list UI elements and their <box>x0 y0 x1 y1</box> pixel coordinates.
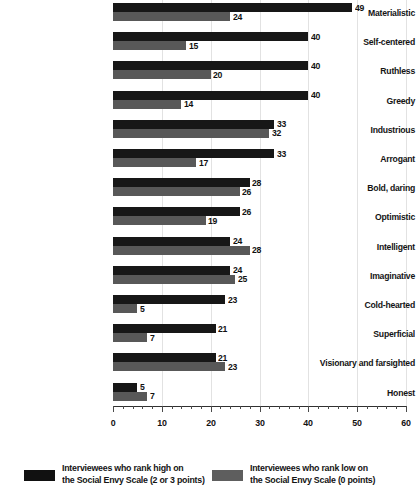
category-label: Visionary and farsighted <box>315 358 415 368</box>
axis-tick-minor <box>347 406 348 409</box>
axis-tick-minor <box>172 406 173 409</box>
bar <box>113 216 206 225</box>
bar-value-label: 26 <box>242 188 251 197</box>
category-label: Superficial <box>315 329 415 339</box>
bar <box>113 295 225 304</box>
x-tick-label: 30 <box>247 417 271 428</box>
bar <box>113 41 186 50</box>
bar <box>113 333 147 342</box>
bar-value-label: 7 <box>150 334 155 343</box>
axis-tick-minor <box>152 406 153 409</box>
bar <box>113 362 225 371</box>
axis-tick-minor <box>386 406 387 409</box>
axis-tick-minor <box>328 406 329 409</box>
bar <box>113 70 211 79</box>
legend-label: Interviewees who rank high onthe Social … <box>62 462 205 485</box>
bar-value-label: 40 <box>311 62 320 71</box>
axis-tick-minor <box>133 406 134 409</box>
axis-tick-minor <box>123 406 124 409</box>
legend-label: Interviewees who rank low onthe Social E… <box>250 462 375 485</box>
bar-value-label: 15 <box>189 42 198 51</box>
bar <box>113 353 216 362</box>
category-label: Self-centered <box>315 37 415 47</box>
axis-tick-major <box>162 406 163 412</box>
bar-value-label: 28 <box>252 246 261 255</box>
chart-legend: Interviewees who rank high onthe Social … <box>0 462 415 504</box>
bar <box>113 100 181 109</box>
x-tick-label: 60 <box>394 417 418 428</box>
bar-value-label: 32 <box>272 129 281 138</box>
plot-area: MaterialisticSelf-centeredRuthlessGreedy… <box>0 0 415 440</box>
bar-value-label: 23 <box>228 296 237 305</box>
legend-swatch <box>212 470 243 481</box>
bar-value-label: 26 <box>242 208 251 217</box>
bar-value-label: 40 <box>311 91 320 100</box>
axis-tick-minor <box>230 406 231 409</box>
axis-tick-major <box>357 406 358 412</box>
axis-tick-major <box>260 406 261 412</box>
axis-tick-minor <box>338 406 339 409</box>
bar-value-label: 24 <box>233 13 242 22</box>
legend-swatch <box>24 470 55 481</box>
bar <box>113 158 196 167</box>
bar-value-label: 7 <box>150 392 155 401</box>
bar <box>113 32 308 41</box>
axis-tick-minor <box>269 406 270 409</box>
legend-label-line1: Interviewees who rank high on <box>62 462 205 474</box>
axis-tick-minor <box>279 406 280 409</box>
bar-value-label: 19 <box>208 217 217 226</box>
bar-value-label: 5 <box>140 305 145 314</box>
bar <box>113 178 250 187</box>
bar-value-label: 21 <box>218 325 227 334</box>
axis-tick-minor <box>240 406 241 409</box>
axis-tick-major <box>113 406 114 412</box>
axis-tick-minor <box>367 406 368 409</box>
bar <box>113 237 230 246</box>
bar-value-label: 49 <box>355 4 364 13</box>
axis-tick-minor <box>201 406 202 409</box>
bar <box>113 149 274 158</box>
axis-tick-minor <box>250 406 251 409</box>
axis-tick-minor <box>318 406 319 409</box>
axis-tick-minor <box>377 406 378 409</box>
legend-entry: Interviewees who rank high onthe Social … <box>24 462 214 485</box>
gridline <box>308 0 309 406</box>
legend-label-line2: the Social Envy Scale (2 or 3 points) <box>62 474 205 486</box>
axis-tick-minor <box>142 406 143 409</box>
category-label: Greedy <box>315 96 415 106</box>
legend-label-line1: Interviewees who rank low on <box>250 462 375 474</box>
category-label: Cold-hearted <box>315 300 415 310</box>
axis-tick-major <box>211 406 212 412</box>
bar <box>113 187 240 196</box>
bar-value-label: 23 <box>228 363 237 372</box>
bar-value-label: 40 <box>311 33 320 42</box>
category-label: Bold, daring <box>315 183 415 193</box>
category-label: Arrogant <box>315 154 415 164</box>
x-tick-label: 20 <box>199 417 223 428</box>
x-tick-label: 0 <box>101 417 125 428</box>
category-label: Industrious <box>315 125 415 135</box>
bar <box>113 392 147 401</box>
bar <box>113 129 269 138</box>
axis-tick-major <box>406 406 407 412</box>
axis-tick-minor <box>181 406 182 409</box>
bar-value-label: 33 <box>277 150 286 159</box>
x-tick-label: 10 <box>150 417 174 428</box>
axis-tick-major <box>308 406 309 412</box>
bar <box>113 120 274 129</box>
gridline <box>357 0 358 406</box>
category-label: Ruthless <box>315 66 415 76</box>
bar <box>113 12 230 21</box>
bar <box>113 324 216 333</box>
axis-tick-minor <box>299 406 300 409</box>
bar <box>113 61 308 70</box>
axis-tick-minor <box>191 406 192 409</box>
legend-label-line2: the Social Envy Scale (0 points) <box>250 474 375 486</box>
bar <box>113 91 308 100</box>
x-tick-label: 50 <box>345 417 369 428</box>
bar <box>113 207 240 216</box>
bar-value-label: 25 <box>238 275 247 284</box>
bar <box>113 383 137 392</box>
bar <box>113 304 137 313</box>
